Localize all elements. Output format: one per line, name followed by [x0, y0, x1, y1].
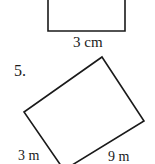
rectangle-figure-problem-4 — [48, 0, 125, 31]
long-side-label: 9 m — [108, 150, 129, 164]
rectangle-width-label: 3 cm — [73, 35, 103, 50]
problem-number: 5. — [14, 63, 26, 79]
rotated-rectangle-figure-problem-5 — [24, 57, 144, 164]
figures-canvas — [0, 0, 155, 164]
worksheet-page: 3 cm 5. 3 m 9 m — [0, 0, 155, 164]
short-side-label: 3 m — [18, 149, 39, 163]
